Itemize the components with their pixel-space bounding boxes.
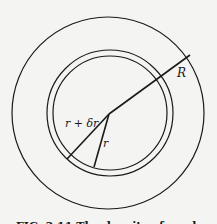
label-R: R (176, 66, 186, 80)
figure-caption: FIG. 3.11 The density of a sphere of rad… (16, 220, 217, 224)
outer-circle-R (12, 17, 204, 209)
sphere-shell-diagram: R r + δr r FIG. 3.11 The density of a sp… (0, 0, 217, 224)
label-r-plus-dr: r + δr (65, 117, 99, 130)
label-r: r (103, 137, 109, 150)
